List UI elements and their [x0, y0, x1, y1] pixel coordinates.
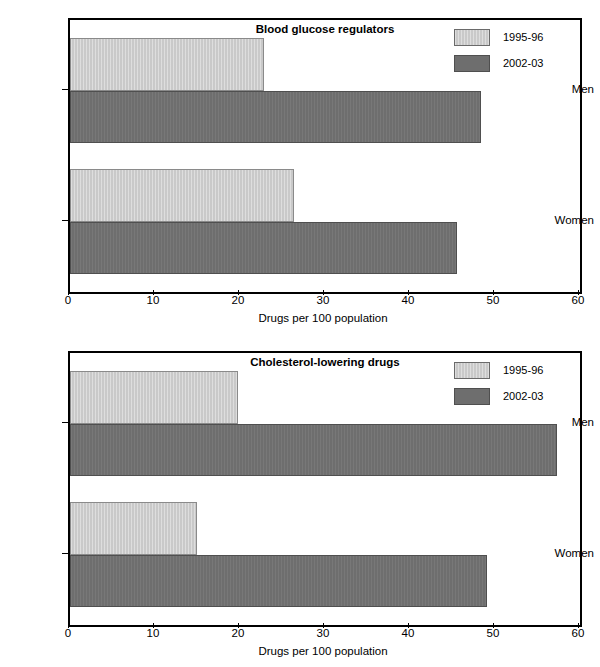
x-axis-title: Drugs per 100 population	[68, 645, 578, 657]
y-axis-tick	[62, 220, 68, 221]
bar-women-2002-03	[70, 555, 487, 608]
y-axis-tick	[62, 89, 68, 90]
x-axis-tick-label-50: 50	[478, 294, 508, 306]
x-axis-tick-label-20: 20	[223, 627, 253, 639]
bar-men-1995-96	[70, 371, 238, 424]
plot-frame: Blood glucose regulators 1995-96 2002-03	[68, 18, 582, 294]
legend: 1995-96 2002-03	[454, 359, 574, 411]
figure-container: Blood glucose regulators 1995-96 2002-03…	[0, 0, 600, 667]
legend-item: 2002-03	[454, 385, 574, 407]
chart-panel-blood-glucose-regulators: Blood glucose regulators 1995-96 2002-03…	[0, 0, 600, 327]
y-axis-category-label-men: Men	[572, 416, 594, 428]
legend-label-series-1995-96: 1995-96	[503, 31, 543, 43]
chart-panel-cholesterol-lowering-drugs: Cholesterol-lowering drugs 1995-96 2002-…	[0, 333, 600, 660]
x-axis-tick-label-30: 30	[308, 294, 338, 306]
legend-label-series-2002-03: 2002-03	[503, 57, 543, 69]
y-axis-tick	[62, 553, 68, 554]
legend: 1995-96 2002-03	[454, 26, 574, 78]
x-axis-tick-label-60: 60	[563, 627, 593, 639]
bar-men-2002-03	[70, 91, 481, 144]
legend-swatch-series-2002-03	[454, 388, 490, 405]
legend-label-series-2002-03: 2002-03	[503, 390, 543, 402]
y-axis-category-label-women: Women	[555, 214, 594, 226]
legend-swatch-series-2002-03	[454, 55, 490, 72]
x-axis-tick-label-0: 0	[53, 627, 83, 639]
bar-men-2002-03	[70, 424, 557, 477]
x-axis-tick-label-50: 50	[478, 627, 508, 639]
legend-item: 1995-96	[454, 26, 574, 48]
x-axis-tick-label-40: 40	[393, 627, 423, 639]
bar-men-1995-96	[70, 38, 264, 91]
x-axis-tick-label-0: 0	[53, 294, 83, 306]
x-axis-tick-label-20: 20	[223, 294, 253, 306]
legend-swatch-series-1995-96	[454, 29, 490, 46]
x-axis-title: Drugs per 100 population	[68, 312, 578, 324]
legend-label-series-1995-96: 1995-96	[503, 364, 543, 376]
y-axis-tick	[62, 422, 68, 423]
y-axis-category-label-women: Women	[555, 547, 594, 559]
legend-item: 2002-03	[454, 52, 574, 74]
bar-women-2002-03	[70, 222, 457, 275]
x-axis-tick-label-10: 10	[138, 294, 168, 306]
legend-swatch-series-1995-96	[454, 362, 490, 379]
legend-item: 1995-96	[454, 359, 574, 381]
x-axis-tick-label-10: 10	[138, 627, 168, 639]
x-axis-tick-label-60: 60	[563, 294, 593, 306]
bar-women-1995-96	[70, 169, 294, 222]
y-axis-category-label-men: Men	[572, 83, 594, 95]
bar-women-1995-96	[70, 502, 197, 555]
x-axis-tick-label-40: 40	[393, 294, 423, 306]
plot-frame: Cholesterol-lowering drugs 1995-96 2002-…	[68, 351, 582, 627]
x-axis-tick-label-30: 30	[308, 627, 338, 639]
